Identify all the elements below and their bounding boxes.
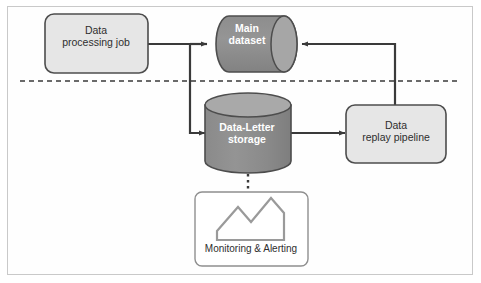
- node-dead-letter-storage[interactable]: [205, 93, 291, 173]
- connector-replay-pipeline-to-main-dataset: [302, 44, 395, 105]
- node-data-replay-pipeline[interactable]: [346, 105, 446, 163]
- diagram-canvas: [0, 0, 481, 283]
- dead-letter-storage-cylinder-cap: [205, 93, 291, 117]
- node-monitoring-alerting[interactable]: [195, 192, 308, 266]
- diagram-figure: Data processing job Main dataset Data-Le…: [0, 0, 481, 283]
- main-dataset-cylinder-cap: [271, 16, 297, 72]
- node-data-processing-job[interactable]: [45, 14, 148, 73]
- monitoring-box: [195, 192, 308, 266]
- connector-job-to-dead-letter-storage: [190, 44, 205, 133]
- node-main-dataset[interactable]: [216, 16, 297, 72]
